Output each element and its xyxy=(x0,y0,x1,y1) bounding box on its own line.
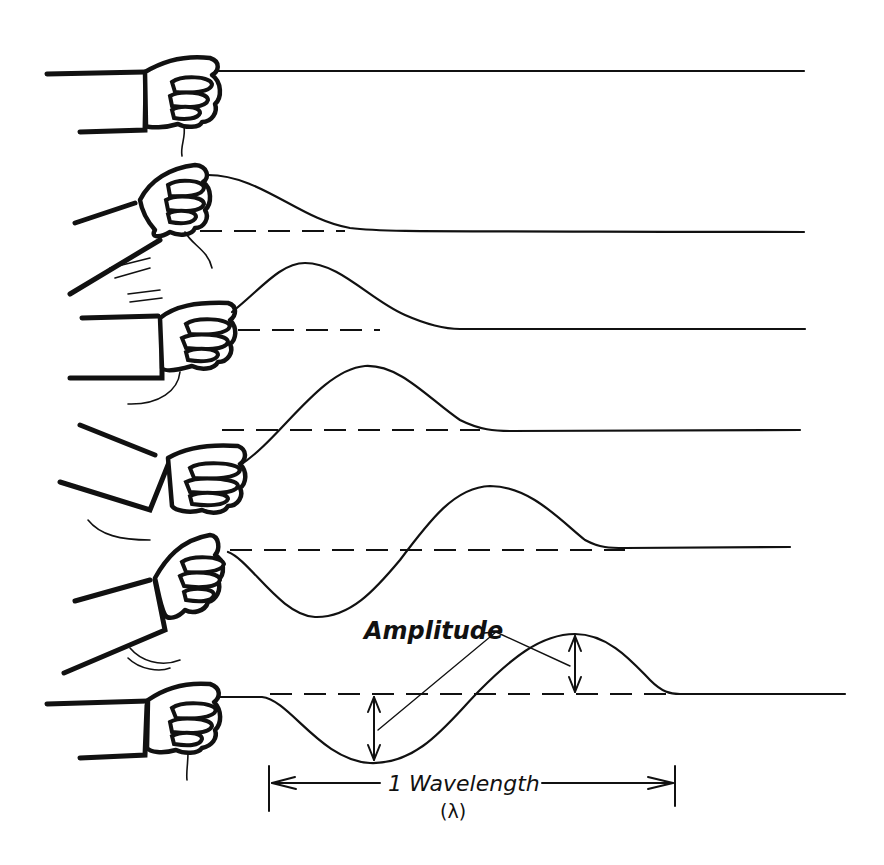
rope xyxy=(228,486,790,617)
rope-tail xyxy=(182,126,185,156)
finger xyxy=(172,703,216,718)
rope xyxy=(240,366,800,465)
finger xyxy=(190,493,228,505)
sleeve-line xyxy=(80,78,146,132)
motion-lines xyxy=(128,290,162,302)
motion-lines xyxy=(128,648,180,670)
sleeve-line xyxy=(70,320,162,378)
row-1-rest xyxy=(47,57,804,156)
finger xyxy=(172,107,200,119)
row-4-crest-further xyxy=(60,366,800,540)
sleeve-line xyxy=(47,72,145,74)
rope xyxy=(232,263,805,329)
row-3-crest xyxy=(70,263,805,404)
finger xyxy=(168,181,204,197)
sleeve-line xyxy=(75,203,135,223)
finger xyxy=(172,733,202,745)
row-2-pulse-start xyxy=(70,165,804,294)
wavelength-symbol: (λ) xyxy=(440,800,466,822)
sleeve-line xyxy=(80,425,155,455)
row-6-full-wave: Amplitude 1 Wavelength (λ) xyxy=(47,617,845,822)
finger xyxy=(172,77,212,92)
sleeve-line xyxy=(80,705,147,758)
finger xyxy=(166,197,204,212)
finger xyxy=(186,319,230,334)
rope xyxy=(208,175,804,232)
motion-lines xyxy=(88,520,150,540)
amplitude-arrow-trough xyxy=(368,697,380,760)
amplitude-arrow-crest xyxy=(569,636,581,692)
finger xyxy=(184,589,214,601)
amplitude-label: Amplitude xyxy=(362,617,503,645)
sleeve-line xyxy=(82,316,158,318)
amplitude-leader-line xyxy=(378,632,496,730)
finger xyxy=(170,719,212,734)
wave-diagram: Amplitude 1 Wavelength (λ) xyxy=(0,0,884,865)
finger xyxy=(180,573,220,588)
finger xyxy=(182,557,224,572)
wavelength-label: 1 Wavelength xyxy=(388,771,540,796)
finger xyxy=(182,335,228,350)
sleeve-line xyxy=(47,701,148,704)
rope xyxy=(218,634,845,763)
finger xyxy=(170,93,208,108)
wavelength-dimension: 1 Wavelength (λ) xyxy=(269,766,675,822)
sleeve-line xyxy=(60,460,170,510)
finger xyxy=(168,211,196,223)
sleeve-line xyxy=(75,580,150,601)
finger xyxy=(186,479,238,494)
finger xyxy=(190,463,240,478)
rope-tail xyxy=(187,752,188,780)
amplitude-leader-line xyxy=(496,632,570,666)
rope-tail xyxy=(185,232,212,268)
finger xyxy=(186,349,218,361)
sleeve-line xyxy=(64,580,165,673)
